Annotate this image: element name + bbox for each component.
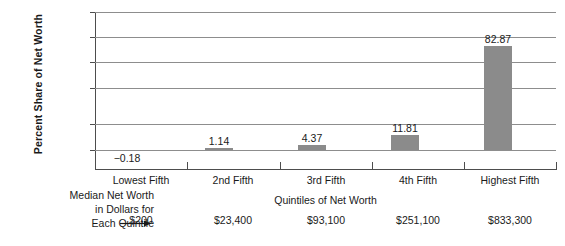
x-tick-2: [280, 162, 281, 170]
y-axis-title: Percent Share of Net Worth: [32, 0, 44, 169]
bar-lowest-fifth: [113, 150, 141, 151]
bar-chart-figure: Percent Share of Net Worth 100 80 60 40 …: [0, 0, 565, 246]
x-tick-3: [372, 162, 373, 170]
bar-value-2nd-fifth: 1.14: [209, 135, 229, 147]
x-tick-4: [464, 162, 465, 170]
bar-3rd-fifth: [298, 145, 326, 150]
x-axis-line: [95, 169, 556, 170]
bar-value-highest-fifth: 82.87: [485, 33, 511, 45]
gridline-zero: [95, 150, 556, 151]
median-annotation-line-1: Median Net Worth: [4, 188, 154, 202]
bar-2nd-fifth: [205, 148, 233, 150]
x-category-label-4th-fifth: 4th Fifth: [399, 174, 437, 186]
x-tick-5: [556, 162, 557, 170]
x-category-label-highest-fifth: Highest Fifth: [481, 174, 540, 186]
bar-highest-fifth: [484, 46, 512, 150]
bar-value-lowest-fifth: −0.18: [114, 152, 141, 164]
median-value-lowest-fifth: $200: [129, 214, 152, 226]
median-value-highest-fifth: $833,300: [488, 214, 532, 226]
median-value-4th-fifth: $251,100: [396, 214, 440, 226]
x-category-label-3rd-fifth: 3rd Fifth: [307, 174, 346, 186]
median-value-2nd-fifth: $23,400: [214, 214, 252, 226]
x-tick-0: [95, 162, 96, 170]
x-axis-title: Quintiles of Net Worth: [95, 194, 556, 206]
bar-value-3rd-fifth: 4.37: [302, 132, 322, 144]
x-category-label-2nd-fifth: 2nd Fifth: [213, 174, 254, 186]
gridline-100: [95, 12, 556, 13]
x-category-label-lowest-fifth: Lowest Fifth: [113, 174, 170, 186]
median-value-3rd-fifth: $93,100: [307, 214, 345, 226]
bar-value-4th-fifth: 11.81: [392, 122, 418, 134]
bar-4th-fifth: [391, 135, 419, 150]
x-tick-1: [187, 162, 188, 170]
